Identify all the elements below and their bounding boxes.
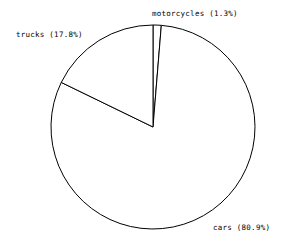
pie-slice-group xyxy=(51,25,255,229)
pie-chart-figure: motorcycles (1.3%) trucks (17.8%) cars (… xyxy=(0,0,293,250)
slice-label-trucks: trucks (17.8%) xyxy=(16,30,83,39)
slice-label-motorcycles: motorcycles (1.3%) xyxy=(152,9,238,18)
slice-label-cars: cars (80.9%) xyxy=(213,223,270,232)
